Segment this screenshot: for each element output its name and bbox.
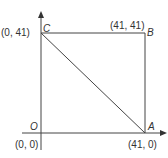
x-axis-arrow-icon bbox=[160, 130, 167, 136]
point-c-coord: (0, 41) bbox=[1, 28, 30, 38]
point-a-label: A bbox=[148, 122, 155, 132]
y-axis-arrow-icon bbox=[38, 11, 44, 18]
point-c-label: C bbox=[43, 24, 50, 34]
point-a-coord: (41, 0) bbox=[128, 140, 157, 150]
point-b-coord: (41, 41) bbox=[110, 21, 144, 31]
point-b-label: B bbox=[147, 28, 154, 38]
point-o-label: O bbox=[30, 122, 38, 132]
diagonal-ca bbox=[41, 33, 145, 133]
point-o-coord: (0, 0) bbox=[15, 140, 38, 150]
